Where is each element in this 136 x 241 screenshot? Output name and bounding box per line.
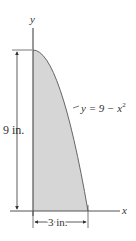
x-axis-label: x bbox=[121, 204, 127, 216]
height-label: 9 in. bbox=[3, 123, 24, 137]
y-axis-label: y bbox=[29, 13, 35, 25]
shaded-region bbox=[33, 50, 88, 211]
diagram-canvas: y x 9 in. 3 in. y = 9 − x2 bbox=[0, 0, 136, 241]
curve-equation: y = 9 − x2 bbox=[80, 101, 126, 114]
curve-equation-exponent: 2 bbox=[122, 101, 126, 109]
width-label: 3 in. bbox=[48, 216, 68, 228]
curve-equation-base: y = 9 − x bbox=[80, 102, 122, 114]
equation-leader bbox=[73, 106, 79, 108]
